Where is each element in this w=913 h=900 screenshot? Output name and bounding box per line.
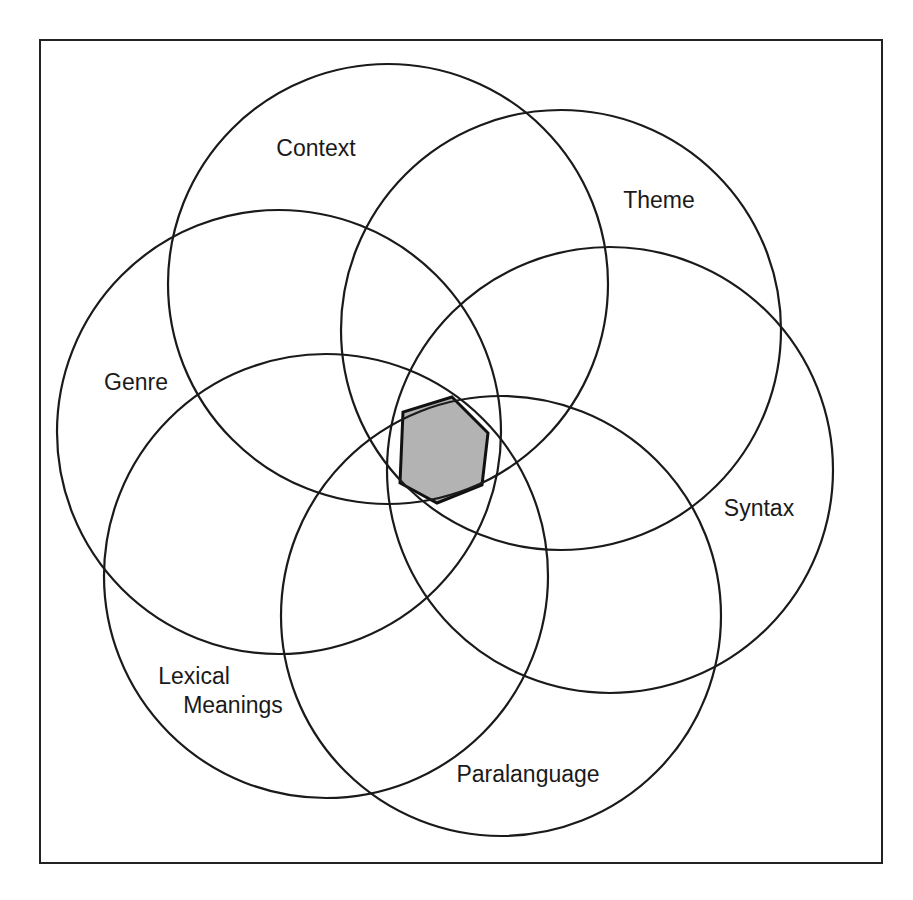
venn-diagram: Context Theme Syntax Paralanguage Lexica… [0,0,913,900]
label-meanings: Meanings [183,692,283,718]
label-context: Context [276,135,356,161]
label-lexical: Lexical [158,663,230,689]
label-genre: Genre [104,369,168,395]
circle-lexical-meanings [104,354,548,798]
label-syntax: Syntax [724,495,795,521]
label-theme: Theme [623,187,695,213]
label-paralanguage: Paralanguage [456,761,599,787]
circle-context [168,64,608,504]
